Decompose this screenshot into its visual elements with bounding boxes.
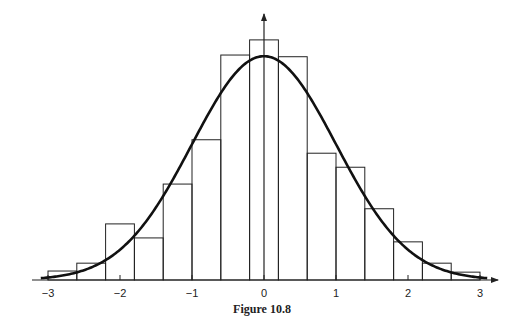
x-tick-label: 0 — [261, 287, 267, 299]
histogram-bar — [336, 167, 365, 280]
histogram-bar — [134, 238, 163, 280]
histogram-bar — [278, 57, 307, 280]
histogram-bar — [192, 140, 221, 280]
figure-caption: Figure 10.8 — [0, 302, 508, 317]
x-tick-label: 2 — [405, 287, 411, 299]
histogram-bar — [394, 242, 423, 280]
x-tick-label: 3 — [477, 287, 483, 299]
histogram-bar — [106, 224, 135, 280]
x-tick-label: −3 — [42, 287, 55, 299]
x-tick-label: −2 — [114, 287, 127, 299]
x-axis-ticks: −3−2−10123 — [42, 275, 483, 299]
x-tick-label: −1 — [186, 287, 199, 299]
histogram-chart: −3−2−10123 — [0, 0, 508, 323]
histogram-bar — [163, 184, 192, 280]
x-tick-label: 1 — [333, 287, 339, 299]
histogram-bar — [307, 153, 336, 280]
